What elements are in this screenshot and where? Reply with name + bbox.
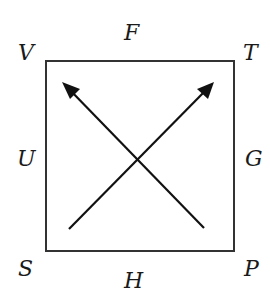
diagram-canvas: V F T U G S H P xyxy=(0,0,270,304)
label-top-left: V xyxy=(18,42,34,64)
arrow-to-top-left xyxy=(68,88,204,228)
square-with-crossing-arrows xyxy=(0,0,270,304)
label-bottom: H xyxy=(124,270,143,292)
label-top: F xyxy=(124,22,139,44)
label-bottom-left: S xyxy=(18,258,33,280)
label-bottom-right: P xyxy=(244,258,259,280)
label-right: G xyxy=(245,148,263,170)
label-left: U xyxy=(17,148,36,170)
label-top-right: T xyxy=(243,42,258,64)
